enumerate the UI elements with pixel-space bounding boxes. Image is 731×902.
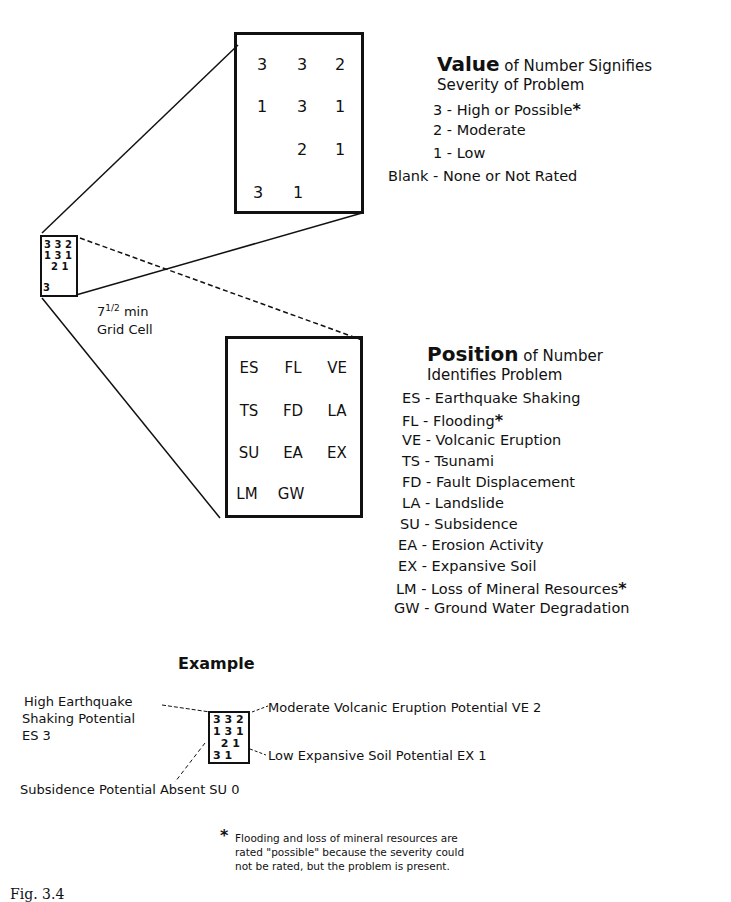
footnote-asterisk-icon: * [220,826,228,845]
position-legend-item: VE - Volcanic Eruption [402,432,561,448]
value-cell: 3 [287,55,317,74]
value-cell: 1 [247,97,277,116]
footnote-line1: Flooding and loss of mineral resources a… [235,832,458,845]
value-grid-box: 3 3 2 1 3 1 2 1 3 1 [234,32,364,214]
small-cell-row: 1 3 1 [44,251,72,261]
position-cell: VE [320,359,354,377]
figure-caption: Fig. 3.4 [10,886,64,902]
callout-su: Subsidence Potential Absent SU 0 [20,782,240,797]
value-cell: 1 [325,140,355,159]
position-cell: FL [276,359,310,377]
value-legend-item: 2 - Moderate [433,122,526,138]
small-cell-row: 2 1 [44,262,68,272]
legend-key: 2 [433,122,442,138]
heading-bold: Value [437,52,500,76]
callout-es-line2: Shaking Potential [22,711,135,726]
legend-desc: Moderate [457,122,526,138]
legend-key: 3 [433,102,442,118]
position-heading: Position of Number [427,342,603,366]
heading-rest: of Number Signifies [500,57,652,75]
heading-bold: Position [427,342,519,366]
small-grid-cell: 3 3 2 1 3 1 2 1 3 [40,235,78,297]
callout-ve: Moderate Volcanic Eruption Potential VE … [268,700,541,715]
value-cell: 1 [325,97,355,116]
value-cell: 2 [287,140,317,159]
value-cell: 3 [287,97,317,116]
position-legend-item: ES - Earthquake Shaking [402,390,581,406]
position-cell: TS [232,402,266,420]
asterisk-icon: * [572,100,580,119]
value-cell: 3 [247,55,277,74]
legend-key: Blank [388,168,428,184]
position-cell: ES [232,359,266,377]
grid-cell-label: 71/2 min [97,303,148,319]
position-grid-box: ES FL VE TS FD LA SU EA EX LM GW [225,336,363,518]
value-legend-item: 1 - Low [433,145,485,161]
example-title: Example [178,654,255,673]
value-cell: 2 [325,55,355,74]
position-legend-item: GW - Ground Water Degradation [394,600,629,616]
position-cell: GW [274,485,308,503]
legend-key: 1 [433,145,442,161]
label-sup: 1/2 [105,303,119,313]
footnote-line3: not be rated, but the problem is present… [235,860,450,873]
example-row: 3 3 2 [213,715,244,725]
legend-desc: Low [457,145,486,161]
position-legend-item: LM - Loss of Mineral Resources* [396,579,627,598]
legend-desc: High or Possible [457,102,573,118]
legend-desc: None or Not Rated [443,168,577,184]
value-legend-item: 3 - High or Possible* [433,100,581,119]
example-row: 2 1 [213,739,240,749]
asterisk-icon: * [618,579,626,598]
asterisk-icon: * [495,411,503,430]
callout-es-line3: ES 3 [22,728,51,743]
position-heading-line2: Identifies Problem [427,366,562,384]
value-heading-line2: Severity of Problem [437,76,584,94]
small-cell-row: 3 [43,283,50,293]
position-legend-item: EA - Erosion Activity [398,537,544,553]
position-legend-item: SU - Subsidence [400,516,518,532]
position-cell: SU [232,444,266,462]
grid-cell-label-line2: Grid Cell [97,322,153,337]
small-cell-row: 3 3 2 [44,240,72,250]
value-heading: Value of Number Signifies [437,52,652,76]
position-legend-item: EX - Expansive Soil [398,558,536,574]
position-cell: EX [320,444,354,462]
position-legend-item: LA - Landslide [402,495,504,511]
position-cell: EA [276,444,310,462]
value-cell: 1 [283,183,313,202]
example-grid-cell: 3 3 2 1 3 1 2 1 3 1 [208,711,250,764]
value-cell: 3 [243,183,273,202]
position-cell: LM [230,485,264,503]
position-legend-item: FL - Flooding* [402,411,503,430]
heading-rest: of Number [519,347,603,365]
value-legend-item: Blank - None or Not Rated [388,168,577,184]
position-legend-item: TS - Tsunami [402,453,494,469]
label-unit: min [120,304,149,319]
position-cell: LA [320,402,354,420]
position-legend-item: FD - Fault Displacement [402,474,575,490]
callout-es-line1: High Earthquake [24,694,132,709]
example-row: 3 1 [213,751,232,761]
callout-ex: Low Expansive Soil Potential EX 1 [268,748,486,763]
example-row: 1 3 1 [213,727,244,737]
position-cell: FD [276,402,310,420]
footnote-line2: rated "possible" because the severity co… [235,846,464,859]
